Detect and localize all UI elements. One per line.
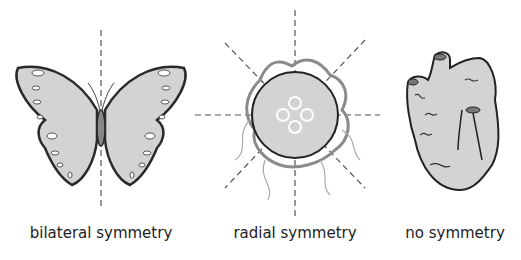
jellyfish-illustration	[180, 0, 380, 260]
butterfly-illustration	[0, 0, 200, 260]
radial-panel: radial symmetry	[180, 0, 380, 260]
bilateral-panel: bilateral symmetry	[0, 0, 200, 260]
no-symmetry-label: no symmetry	[405, 224, 505, 242]
radial-symmetry-label: radial symmetry	[233, 224, 356, 242]
bilateral-symmetry-label: bilateral symmetry	[30, 224, 173, 242]
sponge-illustration	[370, 0, 521, 260]
none-panel: no symmetry	[370, 0, 521, 260]
